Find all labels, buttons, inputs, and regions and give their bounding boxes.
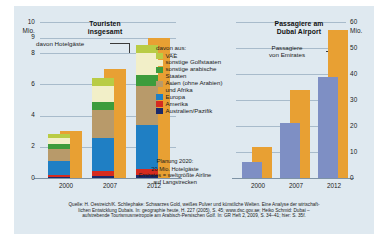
legend: davon aus: VAE sonstige Golfstaaten sons… xyxy=(156,44,236,115)
legend-item-sonstige-arabische-staaten[interactable]: sonstige arabische Staaten xyxy=(156,66,236,79)
y-tick-0: 0 xyxy=(14,175,35,181)
y-tick-6: 6 xyxy=(14,81,35,87)
emirates-bar-2007 xyxy=(280,123,300,178)
legend-swatch-vae xyxy=(156,53,163,59)
seg-europa-2007 xyxy=(92,138,114,171)
hotel-stack-2000 xyxy=(48,134,70,178)
legend-item-asien-afrika[interactable]: Asien (ohne Arabien) und Afrika xyxy=(156,80,236,93)
legend-swatch-sonstige-arabische-staaten xyxy=(156,67,163,73)
source-line-3: aufstrebende Tourismusmetropole am Arabi… xyxy=(16,213,372,219)
legend-swatch-amerika xyxy=(156,101,163,107)
seg-asien-afrika-2012 xyxy=(136,86,158,125)
bar-group-2000-right xyxy=(240,6,276,178)
legend-swatch-australien-pazifik xyxy=(156,108,163,114)
y-tick-10-right: 10 xyxy=(350,149,372,155)
y-tick-10: 10 xyxy=(14,19,35,25)
seg-sonstige-arabische-2012 xyxy=(136,75,158,86)
bar-group-2007-right xyxy=(278,6,314,178)
source-note: Quelle: H. Oestreich/K. Schliephake: Sch… xyxy=(16,202,372,219)
seg-australien-pazifik-2000 xyxy=(48,177,70,178)
seg-sonstige-golf-2007 xyxy=(92,86,114,102)
x-label-2007-right: 2007 xyxy=(278,182,314,189)
x-label-2012-right: 2012 xyxy=(316,182,352,189)
y-tick-20-right: 20 xyxy=(350,123,372,129)
y-tick-50-right: 50 xyxy=(350,45,372,51)
bar-group-2012-right xyxy=(316,6,352,178)
source-line-1: Quelle: H. Oestreich/K. Schliephake: Sch… xyxy=(16,202,372,208)
y-tick-2: 2 xyxy=(14,143,35,149)
x-label-2000-right: 2000 xyxy=(240,182,276,189)
legend-header: davon aus: xyxy=(156,44,236,51)
seg-vae-2012 xyxy=(136,45,158,53)
seg-asien-afrika-2007 xyxy=(92,110,114,138)
hotel-stack-2007 xyxy=(92,78,114,178)
y-unit-right: Mio. xyxy=(350,28,372,34)
bar-group-2007-left xyxy=(90,6,130,178)
planung-line3: auf Langstrecken xyxy=(122,179,228,185)
seg-australien-pazifik-2007 xyxy=(92,176,114,178)
y-tick-9: 9 xyxy=(14,34,35,40)
legend-label-australien-pazifik: Australien/Pazifik xyxy=(166,108,213,115)
emirates-bar-2000 xyxy=(242,162,262,178)
y-tick-0-right: 0 xyxy=(350,175,372,181)
y-tick-40-right: 40 xyxy=(350,71,372,77)
seg-europa-2000 xyxy=(48,161,70,175)
planung-2020-note: Planung 2020: 20 Mio. Hotelgäste Emirate… xyxy=(122,158,228,185)
y-tick-8: 8 xyxy=(14,50,35,56)
legend-label-asien-afrika: Asien (ohne Arabien) und Afrika xyxy=(166,80,223,93)
legend-swatch-asien-afrika xyxy=(156,81,163,87)
y-tick-60-right: 60 xyxy=(350,19,372,25)
legend-swatch-europa xyxy=(156,94,163,100)
infographic-figure: 10 Mio. 9 8 6 4 2 0 Touristen insgesamt … xyxy=(14,6,374,234)
x-label-2000-left: 2000 xyxy=(48,182,84,189)
legend-label-sonstige-arabische-staaten: sonstige arabische Staaten xyxy=(166,66,217,79)
seg-asien-afrika-2000 xyxy=(48,149,70,161)
planung-header: Planung 2020: xyxy=(122,158,228,164)
y-tick-30-right: 30 xyxy=(350,97,372,103)
legend-swatch-sonstige-golfstaaten xyxy=(156,60,163,66)
seg-sonstige-golf-2012 xyxy=(136,53,158,75)
seg-vae-2007 xyxy=(92,78,114,86)
x-axis-line-right xyxy=(232,178,354,179)
legend-item-australien-pazifik[interactable]: Australien/Pazifik xyxy=(156,108,236,115)
emirates-bar-2012 xyxy=(318,77,338,178)
bar-group-2000-left xyxy=(46,6,86,178)
seg-sonstige-arabische-2007 xyxy=(92,102,114,111)
right-chart: 60 Mio. 50 40 30 20 10 0 Passagiere am D… xyxy=(232,6,374,196)
y-tick-4: 4 xyxy=(14,112,35,118)
